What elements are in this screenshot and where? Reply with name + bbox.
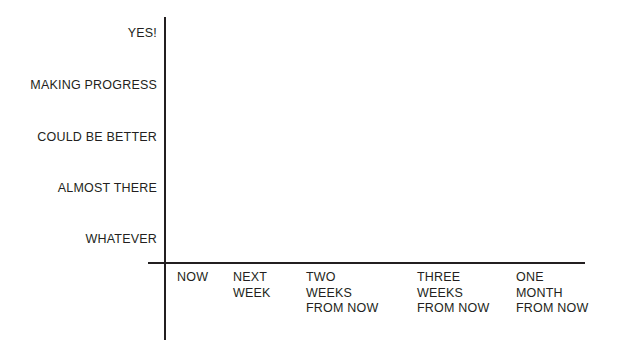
x-axis-tick-label-line: MONTH (516, 286, 588, 302)
x-axis-tick-label-line: FROM NOW (516, 301, 588, 317)
x-axis-tick-label-line: ONE (516, 270, 588, 286)
x-axis-tick-label-line: WEEKS (417, 286, 489, 302)
x-axis-tick-label: TWOWEEKSFROM NOW (306, 270, 378, 317)
x-axis-tick-label-line: THREE (417, 270, 489, 286)
x-axis-tick-label-line: WEEKS (306, 286, 378, 302)
y-axis-tick-label: MAKING PROGRESS (30, 78, 157, 92)
x-axis-tick-label: NOW (177, 270, 208, 286)
plot-area (166, 17, 585, 262)
y-axis-tick-label: YES! (128, 26, 157, 40)
x-axis-tick-label-line: TWO (306, 270, 378, 286)
chart-canvas: YES!MAKING PROGRESSCOULD BE BETTERALMOST… (0, 0, 627, 348)
x-axis-tick-label: THREEWEEKSFROM NOW (417, 270, 489, 317)
x-axis-tick-label-line: NEXT (233, 270, 271, 286)
x-axis-tick-label: ONEMONTHFROM NOW (516, 270, 588, 317)
y-axis-tick-label: WHATEVER (85, 232, 157, 246)
x-axis-tick-label-line: NOW (177, 270, 208, 286)
y-axis-tick-label: COULD BE BETTER (37, 130, 157, 144)
y-axis-tick-label: ALMOST THERE (58, 181, 157, 195)
x-axis-tick-label: NEXTWEEK (233, 270, 271, 301)
x-axis-line (148, 262, 585, 264)
x-axis-tick-label-line: FROM NOW (417, 301, 489, 317)
x-axis-tick-label-line: FROM NOW (306, 301, 378, 317)
x-axis-tick-label-line: WEEK (233, 286, 271, 302)
